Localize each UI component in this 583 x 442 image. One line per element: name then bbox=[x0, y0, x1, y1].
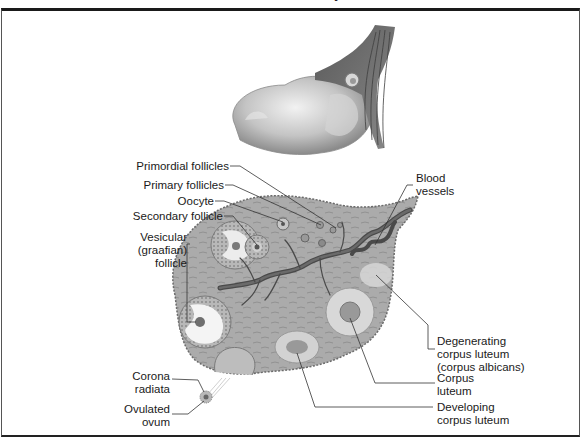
label-dev-line2: corpus luteum bbox=[437, 414, 509, 427]
label-corona-line2: radiata bbox=[132, 383, 170, 396]
label-degenerating-corpus-luteum: Degenerating corpus luteum (corpus albic… bbox=[437, 335, 525, 374]
label-ovum-line1: Ovulated bbox=[124, 403, 170, 416]
label-blood-line1: Blood bbox=[416, 172, 454, 185]
ovary-illustration bbox=[0, 0, 583, 442]
label-degen-line1: Degenerating bbox=[437, 335, 525, 348]
label-blood-vessels: Blood vessels bbox=[416, 172, 454, 198]
label-primary-follicles: Primary follicles bbox=[143, 179, 224, 192]
label-blood-line2: vessels bbox=[416, 185, 454, 198]
whole-ovary bbox=[233, 25, 395, 155]
label-cl-line2: luteum bbox=[437, 385, 474, 398]
label-developing-corpus-luteum: Developing corpus luteum bbox=[437, 401, 509, 427]
label-degen-line2: corpus luteum bbox=[437, 348, 525, 361]
label-ovulated-ovum: Ovulated ovum bbox=[124, 403, 170, 429]
label-dev-line1: Developing bbox=[437, 401, 509, 414]
label-secondary-follicle: Secondary follicle bbox=[133, 210, 223, 223]
label-corpus-luteum: Corpus luteum bbox=[437, 372, 474, 398]
ovary-cross-section bbox=[173, 196, 418, 403]
label-primordial-follicles: Primordial follicles bbox=[136, 160, 229, 173]
label-vesicular-follicle: Vesicular (graafian) follicle bbox=[138, 231, 187, 270]
label-vesicular-line1: Vesicular bbox=[138, 231, 187, 244]
label-vesicular-line3: follicle bbox=[138, 257, 187, 270]
label-cl-line1: Corpus bbox=[437, 372, 474, 385]
label-corona-line1: Corona bbox=[132, 370, 170, 383]
label-ovum-line2: ovum bbox=[124, 416, 170, 429]
label-oocyte: Oocyte bbox=[178, 195, 214, 208]
label-corona-radiata: Corona radiata bbox=[132, 370, 170, 396]
label-vesicular-line2: (graafian) bbox=[138, 244, 187, 257]
